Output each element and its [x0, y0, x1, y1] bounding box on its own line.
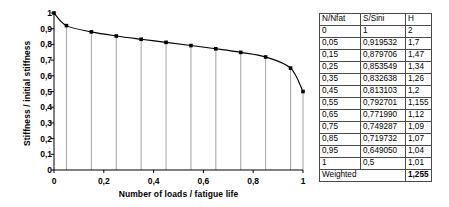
table-cell-n-nfat: 0	[320, 26, 361, 38]
table-cell-n-nfat: 0,85	[320, 134, 361, 146]
table-cell-s-sini: 0,919532	[361, 38, 406, 50]
table-cell-n-nfat: 0,95	[320, 146, 361, 158]
table-row: 0,650,7719901,12	[320, 110, 432, 122]
table-summary-row: Weighted 1,255	[320, 170, 432, 182]
table-row: 012	[320, 26, 432, 38]
data-point-marker	[301, 90, 305, 94]
data-point-marker	[239, 51, 243, 55]
table-row: 0,250,8535491,34	[320, 62, 432, 74]
table-cell-s-sini: 0,832638	[361, 74, 406, 86]
table-cell-n-nfat: 0,55	[320, 98, 361, 110]
table-row: 0,350,8326381,26	[320, 74, 432, 86]
data-point-marker	[52, 11, 56, 15]
table-cell-n-nfat: 0,75	[320, 122, 361, 134]
table-row: 0,850,7197321,07	[320, 134, 432, 146]
data-point-marker	[139, 37, 143, 41]
data-point-marker	[114, 34, 118, 38]
table-row: 0,550,7927011,155	[320, 98, 432, 110]
table-cell-n-nfat: 0,65	[320, 110, 361, 122]
table-cell-h: 1,01	[406, 158, 432, 170]
table-cell-s-sini: 0,813103	[361, 86, 406, 98]
data-table: N/Nfat S/Sini H 0120,050,9195321,70,150,…	[319, 13, 432, 182]
drop-lines	[66, 26, 303, 170]
table-cell-s-sini: 0,649050	[361, 146, 406, 158]
summary-value: 1,255	[406, 170, 432, 182]
table-cell-h: 1,26	[406, 74, 432, 86]
table-cell-h: 1,7	[406, 38, 432, 50]
table-row: 0,450,8131031,2	[320, 86, 432, 98]
table-cell-h: 1,155	[406, 98, 432, 110]
table-cell-s-sini: 0,771990	[361, 110, 406, 122]
table-cell-h: 1,09	[406, 122, 432, 134]
table-row: 10,51,01	[320, 158, 432, 170]
data-point-marker	[264, 55, 268, 59]
data-point-marker	[90, 30, 94, 34]
table-cell-h: 1,34	[406, 62, 432, 74]
table-cell-n-nfat: 0,25	[320, 62, 361, 74]
data-point-marker	[189, 44, 193, 48]
table-row: 0,750,7492871,09	[320, 122, 432, 134]
table-cell-h: 1,2	[406, 86, 432, 98]
data-point-marker	[289, 66, 293, 70]
table-header-cell-h: H	[406, 14, 432, 26]
table-cell-s-sini: 0,853549	[361, 62, 406, 74]
table-cell-s-sini: 1	[361, 26, 406, 38]
figure-container: Stiffness / initial stiffness Number of …	[0, 0, 449, 207]
table-cell-h: 2	[406, 26, 432, 38]
table-cell-s-sini: 0,5	[361, 158, 406, 170]
summary-label: Weighted	[320, 170, 406, 182]
data-point-marker	[65, 24, 69, 28]
table-cell-n-nfat: 0,45	[320, 86, 361, 98]
table-header-cell-ssini: S/Sini	[361, 14, 406, 26]
data-point-marker	[214, 47, 218, 51]
table-header-cell-nnfat: N/Nfat	[320, 14, 361, 26]
plot-area	[0, 0, 312, 207]
table-cell-s-sini: 0,719732	[361, 134, 406, 146]
table-cell-n-nfat: 0,15	[320, 50, 361, 62]
table-cell-s-sini: 0,749287	[361, 122, 406, 134]
table-body: 0120,050,9195321,70,150,8797061,470,250,…	[320, 26, 432, 170]
data-point-markers	[52, 11, 305, 93]
table-row: 0,150,8797061,47	[320, 50, 432, 62]
table-cell-h: 1,07	[406, 134, 432, 146]
stiffness-degradation-chart: Stiffness / initial stiffness Number of …	[0, 0, 312, 207]
table-cell-n-nfat: 0,35	[320, 74, 361, 86]
table-cell-n-nfat: 0,05	[320, 38, 361, 50]
table-cell-h: 1,47	[406, 50, 432, 62]
table-cell-h: 1,04	[406, 146, 432, 158]
table-cell-h: 1,12	[406, 110, 432, 122]
table-row: 0,950,6490501,04	[320, 146, 432, 158]
data-point-marker	[164, 41, 168, 45]
table-cell-s-sini: 0,879706	[361, 50, 406, 62]
table-cell-s-sini: 0,792701	[361, 98, 406, 110]
table-row: 0,050,9195321,7	[320, 38, 432, 50]
table-cell-n-nfat: 1	[320, 158, 361, 170]
table-header-row: N/Nfat S/Sini H	[320, 14, 432, 26]
